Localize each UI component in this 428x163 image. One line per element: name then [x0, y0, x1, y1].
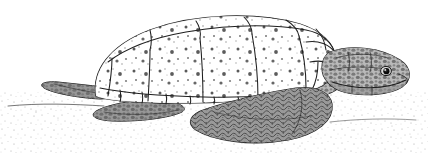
turtle-illustration-figure [0, 0, 428, 163]
eye [381, 66, 392, 75]
illustration-canvas [0, 0, 428, 163]
